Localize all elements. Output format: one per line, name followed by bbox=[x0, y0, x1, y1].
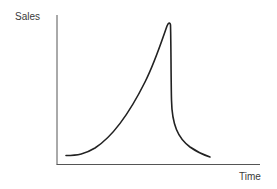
sales-time-chart: Sales Time bbox=[0, 0, 277, 189]
sales-curve bbox=[66, 23, 210, 157]
chart-plot-area bbox=[0, 0, 277, 189]
x-axis-label: Time bbox=[239, 172, 261, 182]
y-axis-label: Sales bbox=[15, 12, 40, 22]
